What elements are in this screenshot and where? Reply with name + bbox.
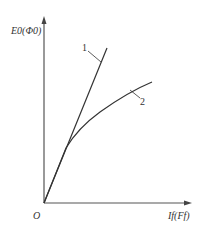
leader-2 (130, 90, 140, 98)
origin-label: O (33, 210, 40, 221)
y-axis-label: E0(Φ0) (11, 25, 41, 36)
curve-2 (44, 82, 152, 203)
x-axis-arrow-icon (184, 201, 192, 206)
curve-2-label: 2 (140, 96, 145, 107)
y-axis-arrow-icon (42, 16, 47, 24)
x-axis-label: If(Ff) (168, 210, 190, 221)
curve-1-label: 1 (82, 42, 87, 53)
leader-1 (88, 51, 101, 62)
